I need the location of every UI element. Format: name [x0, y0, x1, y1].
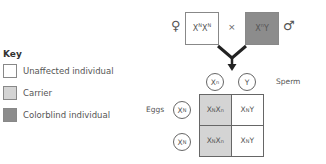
male-parent-box: XnY [245, 12, 279, 45]
punnett-square: XNXn XNY XNXn XNY [199, 94, 264, 157]
male-symbol-icon: ♂ [283, 18, 295, 33]
female-genotype: XNXN [193, 24, 211, 33]
punnett-cell: XNXn [200, 95, 232, 126]
egg-gamete-2: XN [173, 133, 191, 151]
key-label: Unaffected individual [23, 66, 114, 76]
female-symbol-icon: ♀ [171, 18, 181, 33]
sperm-label: Sperm [276, 77, 300, 86]
key-title: Key [3, 49, 22, 59]
egg-gamete-1: XN [173, 101, 191, 119]
cross-times: × [228, 22, 236, 32]
key-label: Carrier [23, 88, 52, 98]
key-item-colorblind: Colorblind individual [3, 108, 110, 122]
carrier-swatch [3, 86, 17, 100]
key-label: Colorblind individual [23, 110, 110, 120]
male-genotype: XnY [255, 24, 269, 33]
unaffected-swatch [3, 64, 17, 78]
merge-arrow-icon [214, 44, 250, 74]
punnett-cell: XNY [232, 95, 264, 126]
punnett-cell: XNY [232, 126, 264, 157]
sperm-gamete-1: Xn [206, 73, 224, 91]
key-item-carrier: Carrier [3, 86, 52, 100]
eggs-label: Eggs [146, 105, 164, 114]
punnett-cell: XNXn [200, 126, 232, 157]
colorblind-swatch [3, 108, 17, 122]
female-parent-box: XNXN [185, 12, 219, 45]
key-item-unaffected: Unaffected individual [3, 64, 114, 78]
sperm-gamete-2: Y [238, 73, 256, 91]
